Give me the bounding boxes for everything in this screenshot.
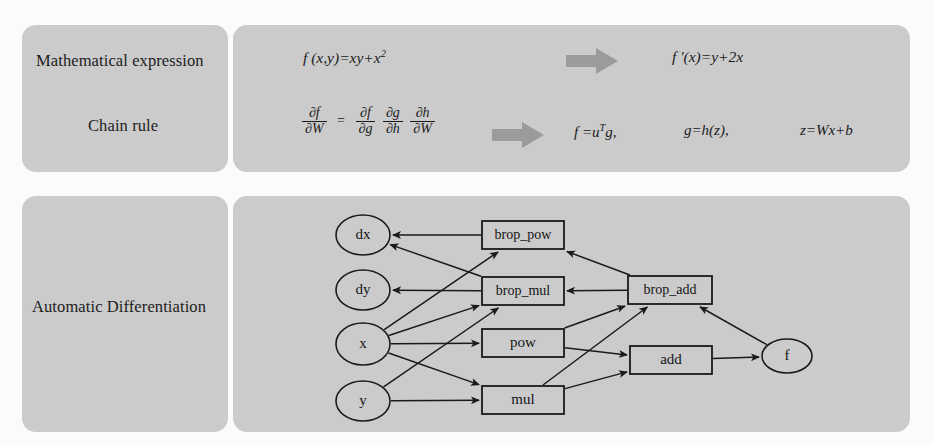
graph-edge-mul-to-add [565, 372, 627, 389]
fraction-dh-dW: ∂h ∂W [410, 106, 435, 136]
row-label-mathematical-expression: Mathematical expression [36, 51, 204, 71]
fraction-df-dg: ∂f ∂g [356, 106, 376, 136]
graph-node-brop_mul: brop_mul [482, 277, 564, 305]
graph-edge-add-to-f [713, 357, 759, 359]
formula-f-body: f =u [574, 124, 600, 140]
row-label-chain-rule: Chain rule [88, 116, 158, 136]
fraction-numerator: ∂h [410, 106, 435, 121]
equals-sign: = [337, 113, 345, 129]
formula-derivative: f '(x)=y+2x [672, 48, 743, 66]
graph-edge-y-to-brop_mul [384, 308, 499, 387]
node-label-y: y [359, 392, 367, 408]
fraction-numerator: ∂g [383, 106, 403, 121]
graph-node-brop_pow: brop_pow [482, 221, 564, 249]
fraction-denominator: ∂W [410, 121, 435, 137]
graph-node-dy: dy [336, 270, 390, 310]
fraction-denominator: ∂g [356, 121, 376, 137]
formula-expression-exponent: 2 [381, 48, 386, 59]
graph-edge-y-to-mul [391, 400, 479, 401]
graph-edges [384, 235, 767, 401]
node-label-brop_add: brop_add [644, 282, 697, 297]
computational-graph: dxdyxybrop_powbrop_mulpowmulbrop_addaddf [233, 196, 910, 432]
panel-top-left [22, 25, 228, 172]
formula-g-equals-hz: g=h(z), [684, 122, 729, 139]
fraction-denominator: ∂W [302, 121, 327, 137]
formula-f-equals-uTg: f =uTg, [574, 122, 616, 141]
graph-edge-pow-to-brop_add [565, 306, 625, 328]
graph-edge-pow-to-add [565, 348, 627, 355]
formula-chain-rule: ∂f ∂W = ∂f ∂g ∂g ∂h ∂h ∂W [300, 106, 437, 136]
figure-canvas: Mathematical expression Chain rule Autom… [0, 0, 933, 445]
fraction-dg-dh: ∂g ∂h [383, 106, 403, 136]
formula-f-tail: g, [605, 124, 616, 140]
graph-node-brop_add: brop_add [628, 276, 712, 304]
graph-edge-brop_add-to-brop_pow [567, 252, 630, 276]
formula-z-equals-Wx-plus-b: z=Wx+b [800, 122, 853, 139]
node-label-mul: mul [511, 391, 534, 407]
node-label-x: x [359, 335, 367, 351]
graph-node-x: x [336, 323, 390, 365]
graph-node-f: f [762, 339, 812, 373]
fraction-numerator: ∂f [356, 106, 376, 121]
graph-node-pow: pow [482, 329, 564, 357]
graph-edge-x-to-pow [391, 343, 479, 344]
graph-edge-x-to-mul [389, 353, 479, 385]
node-label-dy: dy [356, 281, 372, 297]
row-label-automatic-differentiation: Automatic Differentiation [32, 297, 206, 317]
node-label-brop_pow: brop_pow [495, 227, 553, 242]
graph-edge-brop_mul-to-dx [390, 245, 481, 277]
node-label-dx: dx [356, 226, 372, 242]
graph-edge-f-to-brop_add [700, 307, 767, 345]
node-label-add: add [660, 351, 682, 367]
node-label-f: f [785, 347, 790, 363]
graph-nodes: dxdyxybrop_powbrop_mulpowmulbrop_addaddf [336, 215, 812, 421]
fraction-numerator: ∂f [302, 106, 327, 121]
node-label-brop_mul: brop_mul [496, 283, 551, 298]
fraction-denominator: ∂h [383, 121, 403, 137]
graph-node-add: add [630, 346, 712, 374]
graph-node-y: y [336, 381, 390, 421]
formula-expression-body: f (x,y)=xy+x [303, 49, 381, 66]
node-label-pow: pow [510, 334, 536, 350]
graph-edge-brop_mul-to-dy [393, 290, 481, 291]
fraction-df-dW: ∂f ∂W [302, 106, 327, 136]
formula-expression: f (x,y)=xy+x2 [303, 48, 386, 67]
graph-node-dx: dx [336, 215, 390, 255]
block-arrow-right-row1 [566, 48, 618, 78]
block-arrow-right-row2 [492, 122, 544, 152]
graph-node-mul: mul [482, 386, 564, 414]
